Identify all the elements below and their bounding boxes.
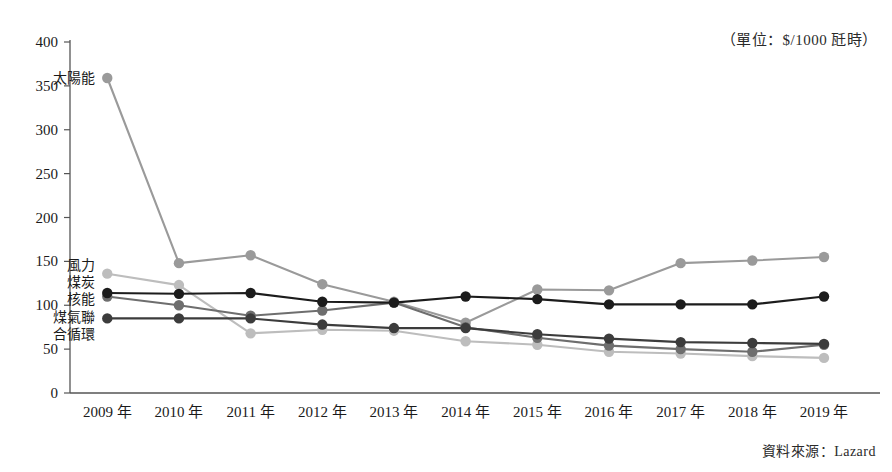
- series-label-coal: 煤炭: [67, 274, 95, 290]
- y-axis-tick-label: 150: [36, 253, 59, 269]
- y-axis-tick-label: 0: [51, 385, 59, 401]
- data-point: [819, 339, 829, 349]
- x-axis-tick-label: 2010 年: [155, 404, 204, 420]
- data-point: [102, 268, 112, 278]
- data-point: [102, 73, 112, 83]
- data-point: [389, 323, 399, 333]
- x-axis-tick-label: 2014 年: [441, 404, 490, 420]
- x-axis-tick-label: 2018 年: [728, 404, 777, 420]
- data-point: [102, 313, 112, 323]
- data-point: [819, 291, 829, 301]
- data-point: [245, 250, 255, 260]
- series-label-wind: 風力: [67, 257, 95, 273]
- data-point: [174, 300, 184, 310]
- series-line-0: [107, 78, 824, 323]
- x-axis-tick-label: 2011 年: [227, 404, 275, 420]
- data-point: [675, 258, 685, 268]
- y-axis-tick-label: 400: [36, 34, 59, 50]
- x-axis-tick-label: 2019 年: [800, 404, 849, 420]
- data-point: [317, 319, 327, 329]
- data-point: [174, 289, 184, 299]
- x-axis-tick-label: 2015 年: [513, 404, 562, 420]
- data-point: [747, 255, 757, 265]
- data-point: [604, 285, 614, 295]
- x-axis-tick-label: 2009 年: [83, 404, 132, 420]
- data-point: [174, 258, 184, 268]
- series-label-nuclear: 核能: [67, 291, 95, 307]
- data-point: [317, 297, 327, 307]
- x-axis-tick-label: 2017 年: [656, 404, 705, 420]
- data-point: [747, 299, 757, 309]
- data-point: [317, 279, 327, 289]
- x-axis-tick-label: 2016 年: [585, 404, 634, 420]
- y-axis-tick-label: 200: [36, 210, 59, 226]
- data-point: [604, 299, 614, 309]
- data-point: [460, 323, 470, 333]
- data-point: [532, 329, 542, 339]
- data-point: [532, 294, 542, 304]
- data-point: [819, 252, 829, 262]
- y-axis-tick-label: 250: [36, 166, 59, 182]
- data-point: [532, 284, 542, 294]
- data-point: [389, 297, 399, 307]
- x-axis-tick-label: 2012 年: [298, 404, 347, 420]
- data-point: [675, 337, 685, 347]
- line-chart-plot: 0501001502002503003504002009 年2010 年2011…: [0, 0, 892, 472]
- series-label-gas-line2: 合循環: [53, 326, 95, 342]
- x-axis-tick-label: 2013 年: [370, 404, 419, 420]
- data-point: [747, 338, 757, 348]
- y-axis-tick-label: 300: [36, 122, 59, 138]
- data-point: [819, 353, 829, 363]
- data-point: [460, 336, 470, 346]
- data-point: [245, 313, 255, 323]
- data-point: [604, 333, 614, 343]
- series-label-solar: 太陽能: [53, 70, 95, 86]
- data-point: [245, 328, 255, 338]
- y-axis-tick-label: 50: [43, 341, 58, 357]
- data-point: [675, 299, 685, 309]
- data-point: [460, 291, 470, 301]
- data-point: [174, 313, 184, 323]
- chart-container: （單位：$/1000 瓩時） 0501001502002503003504002…: [0, 0, 892, 472]
- source-annotation: 資料來源：Lazard: [762, 440, 876, 460]
- series-label-gas-line1: 煤氣聯: [53, 309, 95, 325]
- data-point: [245, 288, 255, 298]
- data-point: [102, 288, 112, 298]
